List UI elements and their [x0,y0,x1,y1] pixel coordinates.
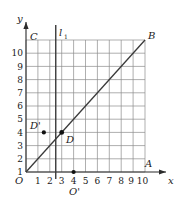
x-tick-label-5: 5 [83,176,89,186]
y-tick-label-9: 9 [17,62,23,72]
x-tick-label-9: 9 [128,176,134,186]
point-label-O-prime: O' [69,186,80,197]
x-tick-label-8: 8 [118,176,124,186]
y-axis-label: y [16,13,23,24]
marker-point-O-prime [72,170,76,174]
y-tick-label-8: 8 [17,75,23,85]
point-label-C: C [30,31,38,42]
x-tick-label-10: 10 [137,176,149,186]
x-tick-label-3: 3 [59,176,65,186]
coordinate-diagram: 1 2 3 4 5 6 7 8 9 10 1 2 3 4 5 6 7 8 9 1… [0,0,185,205]
x-tick-label-1: 1 [35,176,41,186]
point-label-D-prime: D' [29,120,41,131]
marker-point-D [59,130,64,135]
x-axis-label: x [168,175,174,186]
point-label-D: D [65,134,74,145]
canvas-background [0,0,185,205]
point-label-B: B [147,30,155,41]
line-label-l1-text: l [59,27,62,38]
x-tick-label-7: 7 [106,176,112,186]
y-tick-label-10: 10 [12,48,24,58]
x-tick-label-6: 6 [95,176,101,186]
point-label-A: A [144,158,152,169]
line-label-l1-subscript: 1 [64,33,68,40]
marker-point-D-prime [42,130,46,134]
y-tick-label-6: 6 [17,101,23,111]
origin-label: O [15,175,23,186]
y-tick-label-3: 3 [17,141,23,151]
y-tick-label-7: 7 [17,88,23,98]
x-tick-label-4: 4 [71,176,77,186]
y-tick-label-2: 2 [17,154,23,164]
diagram-canvas: 1 2 3 4 5 6 7 8 9 10 1 2 3 4 5 6 7 8 9 1… [0,0,185,205]
y-tick-label-5: 5 [17,114,23,124]
x-tick-label-2: 2 [47,176,53,186]
y-tick-label-4: 4 [17,128,23,138]
